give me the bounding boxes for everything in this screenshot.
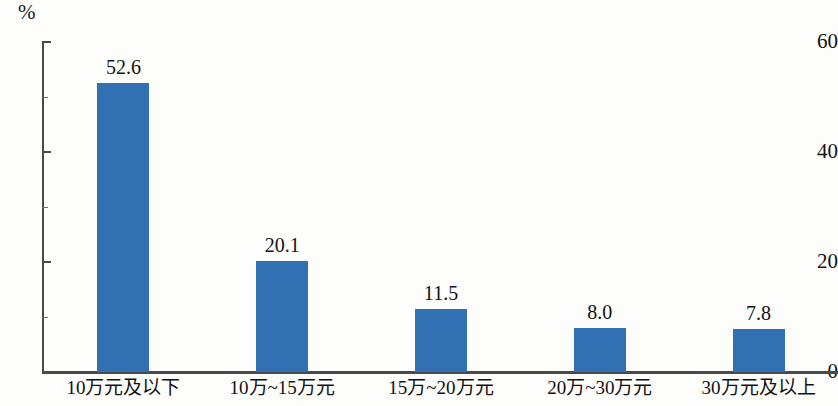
bar-group[interactable]: 52.6 [97, 83, 149, 372]
bar-value-label: 7.8 [746, 303, 771, 323]
bar-value-label: 8.0 [587, 302, 612, 322]
plot-area: 52.620.111.58.07.8 [44, 42, 838, 372]
x-category-label: 20万~30万元 [520, 378, 679, 399]
bar-group[interactable]: 20.1 [256, 261, 308, 372]
bar[interactable] [256, 261, 308, 372]
x-category-label: 10万元及以下 [44, 378, 203, 399]
bar-chart: % 0204060 52.620.111.58.07.8 10万元及以下10万~… [0, 0, 838, 406]
bar[interactable] [574, 328, 626, 372]
bar-group[interactable]: 11.5 [415, 309, 467, 372]
x-category-label: 30万元及以上 [679, 378, 838, 399]
bar[interactable] [97, 83, 149, 372]
bar-value-label: 20.1 [265, 235, 300, 255]
y-axis-unit-label: % [18, 2, 36, 23]
bar-group[interactable]: 7.8 [733, 329, 785, 372]
bar[interactable] [733, 329, 785, 372]
x-category-label: 10万~15万元 [203, 378, 362, 399]
bar[interactable] [415, 309, 467, 372]
bar-value-label: 11.5 [424, 283, 458, 303]
bar-group[interactable]: 8.0 [574, 328, 626, 372]
x-category-label: 15万~20万元 [362, 378, 521, 399]
bar-value-label: 52.6 [106, 57, 141, 77]
